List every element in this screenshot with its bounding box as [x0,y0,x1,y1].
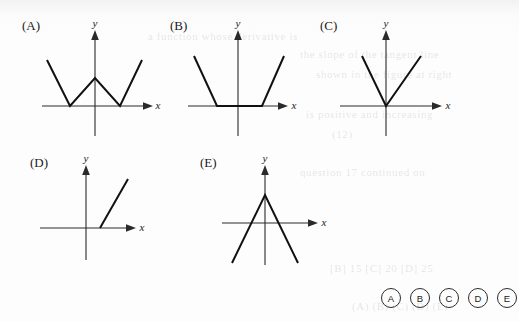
answer-bubble-a[interactable]: A [381,288,401,308]
answer-bubble-b[interactable]: B [410,288,430,308]
figure-e-plot: x y [200,155,370,300]
figure-e-y-arrowhead [261,165,269,175]
figure-d-x-arrowhead [126,224,136,232]
figure-c-y-arrowhead [382,30,390,40]
figure-e-x-label: x [321,216,327,228]
figure-b-plot: x y [170,18,320,143]
figure-a: (A) x y [22,18,172,143]
figure-e-y-label: y [262,152,268,164]
figure-c-label: (C) [320,18,337,34]
figure-b-x-arrowhead [278,102,288,110]
figure-a-label: (A) [22,18,40,34]
figure-d-curve [100,179,128,228]
figure-a-y-label: y [92,17,98,29]
figure-a-plot: x y [22,18,172,143]
figure-e: (E) x y [200,155,370,300]
figure-b-label: (B) [170,18,187,34]
figure-c-x-arrowhead [432,102,442,110]
answer-bubble-d[interactable]: D [468,288,488,308]
figure-e-x-arrowhead [308,219,318,227]
figure-b-x-label: x [291,99,297,111]
figure-c-plot: x y [320,18,480,143]
figure-e-label: (E) [200,155,217,171]
figure-d: (D) x y [30,155,190,280]
figure-a-x-arrowhead [143,102,153,110]
figure-c-x-label: x [445,99,451,111]
figure-c-curve [362,56,421,106]
figure-b-curve [194,56,284,106]
answer-bubble-row: A B C D E [381,288,517,308]
figure-d-plot: x y [30,155,190,280]
answer-bubble-e[interactable]: E [497,288,517,308]
figure-c-y-label: y [383,17,389,29]
figure-c: (C) x y [320,18,480,143]
figure-d-y-label: y [83,152,89,164]
figure-d-x-label: x [139,221,145,233]
figure-d-y-arrowhead [82,165,90,175]
figure-b: (B) x y [170,18,320,143]
figure-a-x-label: x [155,99,161,111]
figure-a-y-arrowhead [91,30,99,40]
figure-b-y-label: y [235,17,241,29]
figure-d-label: (D) [30,155,48,171]
figure-b-y-arrowhead [234,30,242,40]
answer-bubble-c[interactable]: C [439,288,459,308]
